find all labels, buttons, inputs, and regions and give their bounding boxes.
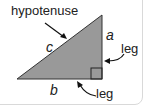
side-c-label: c [46,40,53,54]
right-triangle [17,15,102,79]
hypotenuse-label: hypotenuse [11,4,78,17]
right-leg-label: leg [121,42,138,55]
bottom-leg-label: leg [96,87,113,100]
hypotenuse-arrow-icon [45,23,67,39]
bottom-leg-arrow-icon [77,81,96,96]
side-b-label: b [50,83,58,97]
side-a-label: a [106,28,114,42]
